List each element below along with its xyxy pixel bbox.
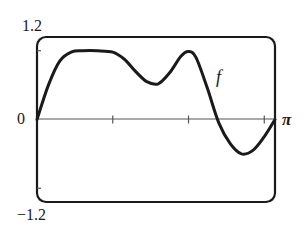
curve-f (37, 51, 275, 155)
x-pi-label: π (282, 111, 291, 128)
y-min-label: −1.2 (17, 207, 46, 223)
y-max-label: 1.2 (22, 18, 42, 34)
curve-f-label: f (216, 68, 221, 86)
function-plot (0, 0, 305, 235)
x-origin-label: 0 (17, 111, 25, 127)
